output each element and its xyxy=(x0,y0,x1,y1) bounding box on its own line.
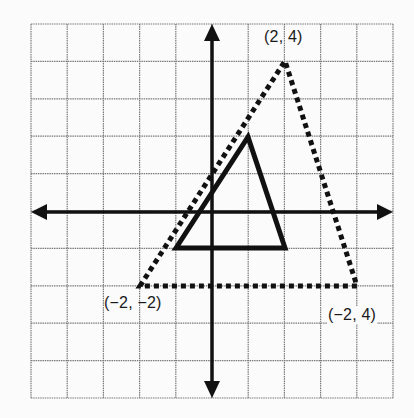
y-axis-up-arrow-icon xyxy=(204,24,220,41)
label-top-vertex: (2, 4) xyxy=(264,28,303,46)
label-left-vertex: (−2, −2) xyxy=(104,294,162,312)
coordinate-plane xyxy=(0,0,414,418)
y-axis-down-arrow-icon xyxy=(204,381,220,398)
x-axis-right-arrow-icon xyxy=(377,204,393,220)
label-right-vertex: (−2, 4) xyxy=(327,306,377,324)
x-axis-left-arrow-icon xyxy=(31,204,47,220)
original-triangle xyxy=(176,137,285,248)
coordinate-plane-diagram: (2, 4) (−2, −2) (−2, 4) xyxy=(0,0,414,418)
